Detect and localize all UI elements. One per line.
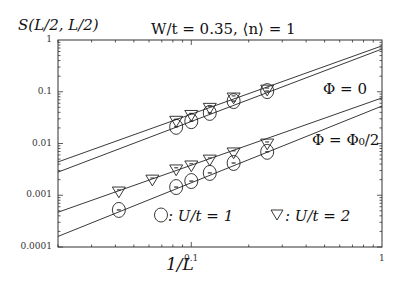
legend-circle-label: : U/t = 1 (168, 207, 233, 225)
y-tick-0.1: 0.1 (38, 86, 52, 96)
legend-triangle-label: : U/t = 2 (285, 207, 350, 225)
legend-circle-icon (155, 208, 168, 222)
x-tick-1: 1 (379, 253, 385, 263)
annotation-phi-half: Φ = Φ₀/2 (312, 131, 379, 149)
y-axis-label: S(L/2, L/2) (18, 16, 99, 34)
triangle-marker (227, 93, 240, 104)
fit-line (58, 49, 382, 172)
x-tick-0.1: 0.1 (184, 253, 198, 263)
chart-title: W/t = 0.35, ⟨n⟩ = 1 (151, 20, 296, 38)
legend-triangle-icon (271, 210, 283, 220)
y-tick-0.01: 0.01 (32, 138, 52, 148)
fit-line (58, 98, 382, 212)
y-tick-1: 1 (46, 34, 52, 44)
y-tick-0.001: 0.001 (26, 189, 52, 199)
annotation-phi-zero: Φ = 0 (323, 80, 367, 98)
y-tick-0.0001: 0.0001 (21, 241, 53, 251)
